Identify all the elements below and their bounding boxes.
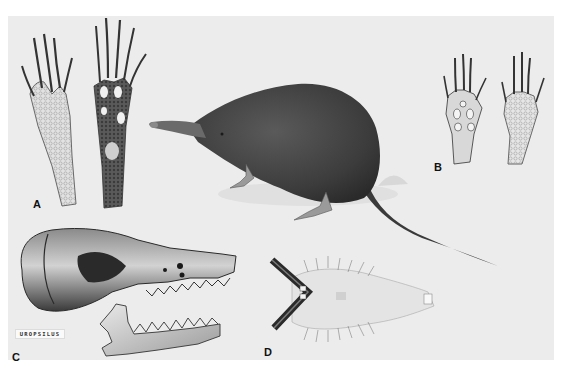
genus-name-tag: UROPSILUS [15,329,65,339]
panel-label-b: B [434,162,442,173]
panel-label-c: C [12,352,20,363]
panel-b-feet [444,52,544,164]
illustration-plate: A B C D UROPSILUS [8,16,554,360]
panel-a-feet [22,18,146,208]
panel-label-d: D [264,347,272,358]
plate-artwork [8,16,554,360]
panel-label-a: A [33,199,41,210]
panel-d-snout [272,256,434,342]
shrew-figure [149,84,498,266]
